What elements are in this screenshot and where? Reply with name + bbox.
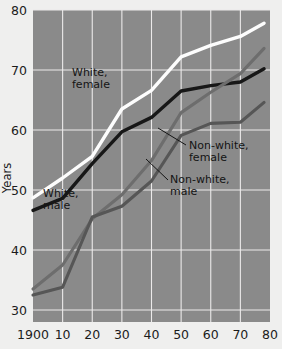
x-tick-label-40: 40 bbox=[144, 327, 160, 342]
x-tick-label-50: 50 bbox=[173, 327, 189, 342]
x-tick-label-80: 80 bbox=[262, 327, 278, 342]
chart-svg: 807060504030 19001020304050607080 Years … bbox=[0, 0, 282, 349]
y-tick-label-80: 80 bbox=[11, 3, 27, 18]
annotation-white-male-line2: male bbox=[43, 199, 71, 212]
x-tick-label-10: 10 bbox=[55, 327, 71, 342]
x-tick-label-60: 60 bbox=[203, 327, 219, 342]
x-axis-tick-labels: 19001020304050607080 bbox=[17, 327, 278, 342]
life-expectancy-chart-figure: 807060504030 19001020304050607080 Years … bbox=[0, 0, 282, 349]
y-axis-title: Years bbox=[0, 163, 14, 194]
x-tick-label-70: 70 bbox=[232, 327, 248, 342]
annotation-white-female-line2: female bbox=[72, 78, 110, 91]
y-axis-title-text: Years bbox=[0, 163, 14, 194]
x-tick-label-20: 20 bbox=[84, 327, 100, 342]
y-tick-label-40: 40 bbox=[11, 243, 27, 258]
y-tick-label-70: 70 bbox=[11, 63, 27, 78]
y-tick-label-60: 60 bbox=[11, 123, 27, 138]
chart-canvas: 807060504030 19001020304050607080 Years … bbox=[0, 0, 282, 349]
annotation-nonwhite-female-line2: female bbox=[189, 151, 227, 164]
x-tick-label-30: 30 bbox=[114, 327, 130, 342]
x-tick-label-1900: 1900 bbox=[17, 327, 49, 342]
annotation-nonwhite-male-line2: male bbox=[170, 185, 198, 198]
y-tick-label-30: 30 bbox=[11, 303, 27, 318]
annotation-white-female: White, female bbox=[72, 66, 110, 91]
